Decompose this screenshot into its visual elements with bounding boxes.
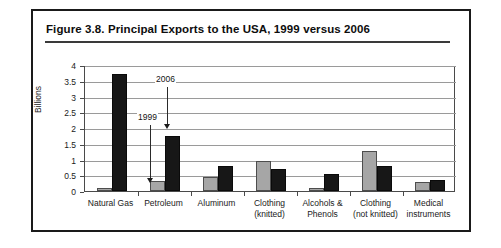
annotation-label-1999: 1999 [137,112,158,122]
y-tick-label: 0.5 [50,171,76,181]
bar-1999 [362,151,377,191]
bar-group [297,65,350,191]
bar-group [191,65,244,191]
bar-group [244,65,297,191]
x-category-label-line: instruments [396,209,461,220]
x-tick-mark [297,192,298,196]
bar-1999 [203,177,218,191]
bar-1999 [97,188,112,191]
bar-group [85,65,138,191]
y-tick-label: 3 [50,93,76,103]
y-tick-label: 1 [50,156,76,166]
bar-2006 [271,169,286,191]
y-tick-label: 1.5 [50,140,76,150]
y-tick-label: 2 [50,124,76,134]
bar-group [403,65,456,191]
bar-2006 [377,166,392,191]
chart-container: Billions 00.511.522.533.54 Natural GasPe… [0,0,501,248]
x-category-label-line: Medical [396,198,461,209]
bar-group [350,65,403,191]
annotation-arrowhead-2006 [164,124,170,129]
annotation-leader-1999 [150,125,151,179]
y-axis-title: Billions [33,86,43,113]
bar-2006 [218,166,233,191]
x-tick-mark [244,192,245,196]
annotation-arrowhead-1999 [147,178,153,183]
bar-2006 [165,136,180,191]
bar-1999 [256,161,271,191]
x-category-label: Medicalinstruments [396,198,461,219]
bar-2006 [324,174,339,191]
y-tick-label: 0 [50,187,76,197]
plot-area [84,66,455,192]
bar-2006 [112,74,127,191]
y-tick-label: 2.5 [50,108,76,118]
annotation-label-2006: 2006 [155,74,176,84]
x-tick-mark [191,192,192,196]
bar-1999 [309,188,324,191]
bar-1999 [415,182,430,191]
x-tick-mark [350,192,351,196]
x-tick-mark [138,192,139,196]
annotation-leader-2006 [167,87,168,125]
y-tick-label: 3.5 [50,77,76,87]
x-tick-mark [403,192,404,196]
y-tick-label: 4 [50,61,76,71]
y-tick-mark [80,192,84,193]
bar-2006 [430,180,445,191]
